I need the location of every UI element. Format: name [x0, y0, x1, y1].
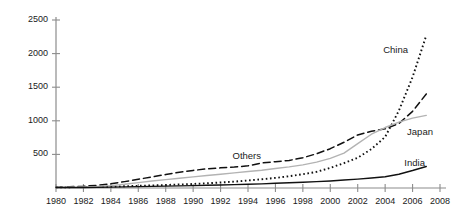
series-label-india: India — [404, 157, 425, 168]
chart-series-group — [56, 35, 426, 187]
series-label-japan: Japan — [407, 126, 433, 137]
y-tick-1500: 1500 — [12, 81, 48, 91]
line-chart: 5001000150020002500 19801982198419861988… — [0, 0, 465, 216]
y-tick-2000: 2000 — [12, 48, 48, 58]
series-label-china: China — [383, 44, 408, 55]
y-tick-1000: 1000 — [12, 115, 48, 125]
y-tick-2500: 2500 — [12, 14, 48, 24]
x-tick-2008: 2008 — [424, 196, 456, 206]
y-tick-500: 500 — [12, 148, 48, 158]
chart-plot-area — [0, 0, 465, 216]
series-label-others: Others — [233, 150, 262, 161]
